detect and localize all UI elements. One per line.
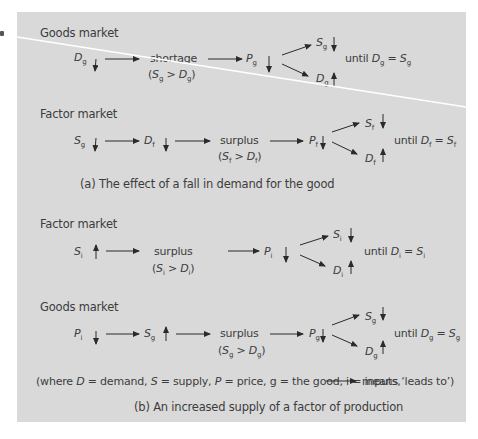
var-pg-b: Pg	[309, 327, 320, 345]
var-sf-out: Sf	[365, 117, 374, 135]
section-label-goods-market-b: Goods market	[40, 301, 118, 314]
until-condition-factor-a: until Df = Sf	[394, 134, 456, 152]
var-sg-out: Sg	[316, 36, 327, 54]
var-sg-start: Sg	[74, 134, 85, 152]
var-df-out: Df	[365, 152, 376, 170]
var-df: Df	[144, 134, 155, 152]
condition-shortage: (Sg > Dg)	[148, 68, 195, 86]
var-dg-out-b: Dg	[365, 345, 378, 363]
var-pg: Pg	[246, 52, 257, 70]
condition-surplus-a: (Sf > Df)	[218, 150, 261, 168]
notation-legend-end: means ‘leads to’)	[362, 375, 454, 388]
until-condition-factor-b: until Di = Si	[364, 245, 425, 263]
until-condition-goods-b: until Dg = Sg	[394, 327, 460, 345]
condition-surplus-b1: (Si > Di)	[152, 262, 194, 280]
until-condition-goods-a: until Dg = Sg	[345, 52, 411, 70]
var-dg-start: Dg	[74, 51, 87, 69]
var-pi-start: Pi	[74, 327, 82, 345]
caption-b: (b) An increased supply of a factor of p…	[134, 401, 403, 414]
var-pf: Pf	[309, 134, 318, 152]
notation-legend: (where D = demand, S = supply, P = price…	[36, 375, 401, 388]
var-sg-out-b: Sg	[365, 310, 376, 328]
state-surplus-b1: surplus	[154, 245, 193, 258]
caption-a: (a) The effect of a fall in demand for t…	[80, 178, 334, 191]
section-label-goods-market-a: Goods market	[40, 27, 118, 40]
var-sg-second: Sg	[144, 327, 155, 345]
var-pi: Pi	[264, 245, 272, 263]
state-shortage: shortage	[150, 52, 197, 65]
condition-surplus-b2: (Sg > Dg)	[218, 344, 265, 362]
var-di-out: Di	[333, 264, 343, 282]
var-si-start: Si	[74, 245, 83, 263]
state-surplus-b2: surplus	[220, 327, 259, 340]
clipped-text-fragment	[0, 31, 4, 36]
section-label-factor-market-a: Factor market	[40, 108, 117, 121]
var-si-out: Si	[333, 228, 342, 246]
state-surplus-a: surplus	[220, 134, 259, 147]
var-dg-out: Dg	[316, 72, 329, 90]
section-label-factor-market-b: Factor market	[40, 218, 117, 231]
